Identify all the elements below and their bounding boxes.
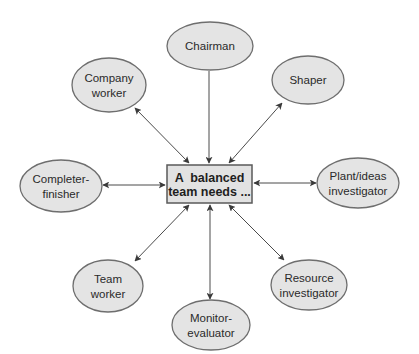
node-company-worker: Companyworker [72, 58, 146, 112]
node-ellipse [73, 260, 143, 312]
node-label: Chairman [185, 40, 235, 52]
node-label: Completer- [33, 173, 90, 185]
center-label: team needs ... [168, 185, 251, 199]
node-label: Team [94, 273, 122, 285]
node-completer-finisher: Completer-finisher [20, 160, 102, 212]
node-label: worker [91, 87, 127, 99]
node-label: Plant/ideas [330, 170, 387, 182]
arrow-team-worker [135, 205, 189, 261]
node-label: investigator [280, 287, 339, 299]
center-node: A balancedteam needs ... [167, 165, 252, 203]
node-label: Monitor- [190, 312, 232, 324]
center-label: A balanced [175, 171, 245, 185]
node-ellipse [271, 260, 347, 310]
node-team-worker: Teamworker [73, 260, 143, 312]
arrow-company-worker [135, 108, 189, 163]
node-monitor-evaluator: Monitor-evaluator [172, 300, 250, 350]
node-label: Resource [284, 272, 333, 284]
team-roles-diagram: ChairmanCompanyworkerShaperCompleter-fin… [0, 0, 419, 354]
node-label: worker [90, 288, 126, 300]
node-label: Shaper [289, 74, 326, 86]
node-chairman: Chairman [167, 22, 253, 70]
node-plant-ideas-investigator: Plant/ideasinvestigator [317, 158, 399, 208]
arrow-shaper [229, 103, 282, 163]
node-ellipse [72, 58, 146, 112]
node-label: Company [84, 72, 133, 84]
node-label: finisher [42, 188, 79, 200]
node-ellipse [172, 300, 250, 350]
arrow-resource-investigator [229, 205, 284, 260]
node-label: investigator [329, 185, 388, 197]
node-resource-investigator: Resourceinvestigator [271, 260, 347, 310]
node-ellipse [20, 160, 102, 212]
node-label: evaluator [187, 327, 234, 339]
node-ellipse [317, 158, 399, 208]
node-shaper: Shaper [272, 56, 344, 104]
